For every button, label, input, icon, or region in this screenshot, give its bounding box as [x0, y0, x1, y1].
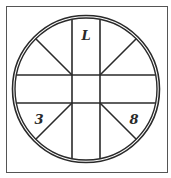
label-bottom-right: 8 [129, 112, 138, 127]
label-bottom-left: 3 [34, 112, 43, 127]
label-top: L [80, 28, 90, 43]
puzzle-diagram: L 3 8 [0, 0, 171, 178]
